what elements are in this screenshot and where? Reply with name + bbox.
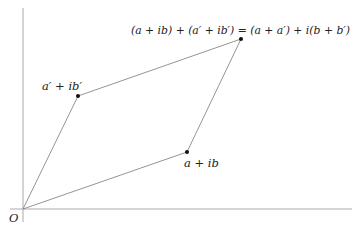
z2-label: a′ + ib′ <box>42 79 82 93</box>
edge-origin-to-z1 <box>23 152 187 209</box>
complex-addition-diagram: O a + ib a′ + ib′ (a + ib) + (a′ + ib′) … <box>0 0 360 234</box>
edge-z1-to-sum <box>187 39 241 152</box>
origin-label: O <box>9 211 19 225</box>
point-sum <box>239 37 243 41</box>
edge-origin-to-z2 <box>23 96 78 209</box>
point-z1 <box>185 150 189 154</box>
z1-label: a + ib <box>184 156 219 170</box>
point-z2 <box>76 94 80 98</box>
sum-label: (a + ib) + (a′ + ib′) = (a + a′) + i(b +… <box>131 24 350 37</box>
edge-z2-to-sum <box>78 39 241 96</box>
